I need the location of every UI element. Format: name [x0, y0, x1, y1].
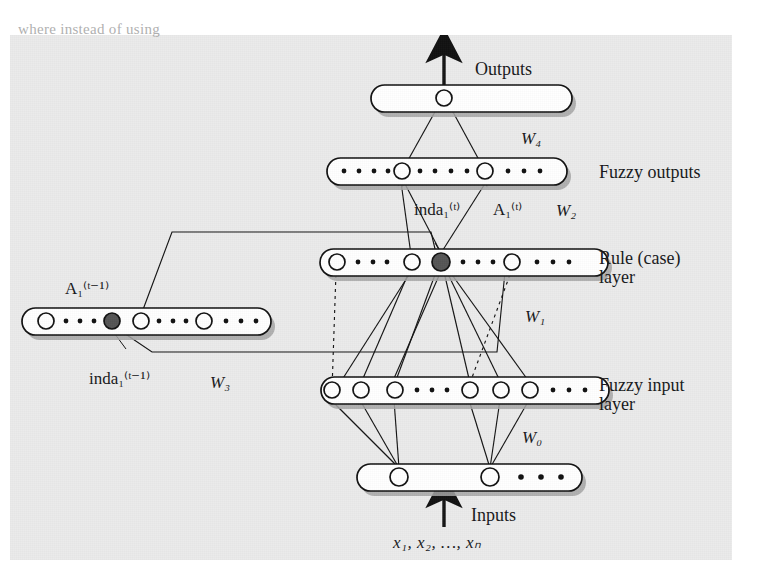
- node-input-2: [481, 468, 499, 486]
- label-w1: W₁: [525, 307, 545, 327]
- label-fuzzy-outputs: Fuzzy outputs: [599, 162, 701, 183]
- label-rule-case-layer: Rule (case) layer: [599, 249, 719, 288]
- capsule-fuzzy-output-layer: [327, 158, 567, 185]
- label-a1-t: A₁⁽ᵗ⁾: [493, 199, 522, 220]
- node-prev-rule-3: [196, 313, 212, 329]
- node-rule-active-inda1-t: [432, 253, 450, 271]
- node-fuzzy-output-1: [394, 163, 410, 179]
- label-w0: W₀: [522, 428, 542, 448]
- node-prev-rule-active-inda1-tm1: [104, 313, 120, 329]
- node-fuzzy-input-6: [522, 382, 538, 398]
- node-prev-rule-1: [38, 313, 54, 329]
- node-prev-rule-2: [133, 313, 149, 329]
- label-rule-case-layer-line1: Rule (case): [599, 248, 680, 268]
- label-a1-t-minus-1: A₁⁽ᵗ⁻¹⁾: [65, 278, 109, 299]
- label-w2: W₂: [556, 201, 576, 221]
- node-input-1: [390, 468, 408, 486]
- page-canvas: where instead of using: [0, 0, 767, 582]
- node-output: [436, 90, 452, 106]
- node-fuzzy-input-4: [462, 382, 478, 398]
- capsule-output-layer: [371, 85, 572, 112]
- label-w4: W₄: [521, 129, 541, 149]
- label-rule-case-layer-line2: layer: [599, 267, 635, 287]
- node-rule-1: [329, 254, 345, 270]
- node-rule-3: [504, 254, 520, 270]
- figure-region: where instead of using: [10, 35, 732, 560]
- network-layers: [10, 35, 732, 560]
- label-w3: W₃: [210, 373, 230, 393]
- label-fuzzy-input-layer-line2: layer: [599, 394, 635, 414]
- node-fuzzy-input-2: [353, 382, 369, 398]
- label-fuzzy-input-layer: Fuzzy input layer: [599, 376, 729, 415]
- node-fuzzy-input-5: [493, 382, 509, 398]
- label-inda1-t: inda₁⁽ᵗ⁾: [414, 199, 460, 220]
- node-fuzzy-input-1: [324, 382, 340, 398]
- label-fuzzy-input-layer-line1: Fuzzy input: [599, 375, 685, 395]
- label-outputs: Outputs: [475, 59, 532, 80]
- node-rule-2: [404, 254, 420, 270]
- label-inda1-t-minus-1: inda₁⁽ᵗ⁻¹⁾: [89, 368, 150, 389]
- node-fuzzy-output-2: [477, 163, 493, 179]
- node-fuzzy-input-3: [387, 382, 403, 398]
- label-input-vector: x₁, x₂, …, xₙ: [393, 532, 482, 553]
- label-inputs: Inputs: [471, 505, 516, 526]
